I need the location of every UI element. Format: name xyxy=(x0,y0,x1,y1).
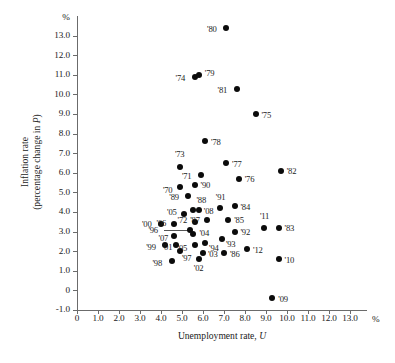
y-tick-mark xyxy=(73,153,77,154)
y-tick-mark xyxy=(73,271,77,272)
data-point[interactable] xyxy=(185,193,191,199)
data-point[interactable] xyxy=(234,86,240,92)
data-point[interactable] xyxy=(261,225,267,231)
y-tick-mark xyxy=(73,75,77,76)
y-axis-title-line2: (percentage change in P) xyxy=(31,114,42,210)
data-point[interactable] xyxy=(196,72,202,78)
data-point-label: '78 xyxy=(211,138,221,147)
y-tick-mark xyxy=(73,251,77,252)
y-axis-line xyxy=(77,16,78,311)
y-tick-label: 12.0 xyxy=(38,51,70,60)
data-point[interactable] xyxy=(223,160,229,166)
data-point[interactable] xyxy=(244,246,250,252)
y-tick-label: 1.0 xyxy=(38,266,70,275)
data-point[interactable] xyxy=(192,242,198,248)
data-point[interactable] xyxy=(173,242,179,248)
data-point-label: '01 xyxy=(163,243,173,252)
data-point-label: '85 xyxy=(234,216,244,225)
x-axis-line xyxy=(77,310,367,311)
data-point-label: '91 xyxy=(216,193,226,202)
data-point[interactable] xyxy=(177,184,183,190)
data-point-label: '09 xyxy=(278,295,288,304)
data-point-label: '88 xyxy=(197,196,207,205)
x-axis-title-text: Unemployment rate, U xyxy=(178,330,266,341)
y-tick-mark xyxy=(73,232,77,233)
y-axis-title: Inflation rate (percentage change in P) xyxy=(19,77,43,247)
y-tick-mark xyxy=(73,173,77,174)
data-point-label: '77 xyxy=(232,160,242,169)
phillips-curve-scatter-chart: % % 13.012.011.010.09.08.07.06.05.04.03.… xyxy=(0,0,395,363)
data-point-label: '03 xyxy=(208,250,218,259)
data-point[interactable] xyxy=(181,211,187,217)
data-point-label: '74 xyxy=(176,74,186,83)
x-axis-title: Unemployment rate, U xyxy=(77,330,367,341)
data-point[interactable] xyxy=(269,295,275,301)
data-point[interactable] xyxy=(232,229,238,235)
data-point-label: '73 xyxy=(175,150,185,159)
data-point-label: '82 xyxy=(287,167,297,176)
data-point-label: '11 xyxy=(260,212,269,221)
x-axis-unit: % xyxy=(372,314,380,324)
data-point-label: '99 xyxy=(146,243,156,252)
data-point-label: '12 xyxy=(253,246,263,255)
y-tick-label: 2.0 xyxy=(38,247,70,256)
data-point-label: '72 xyxy=(178,216,188,225)
data-point[interactable] xyxy=(217,205,223,211)
data-point-label: '98 xyxy=(153,259,163,268)
data-point[interactable] xyxy=(196,207,202,213)
data-point-label: '75 xyxy=(262,111,272,120)
data-point[interactable] xyxy=(276,225,282,231)
data-point[interactable] xyxy=(177,164,183,170)
data-point-label: '07 xyxy=(159,234,169,243)
data-point-label: '80 xyxy=(207,25,217,34)
data-point-label: '10 xyxy=(285,256,295,265)
data-point-label: '00 xyxy=(142,220,152,229)
data-point[interactable] xyxy=(190,207,196,213)
y-tick-mark xyxy=(73,55,77,56)
data-point[interactable] xyxy=(219,236,225,242)
data-point-label: '92 xyxy=(241,228,251,237)
y-tick-mark xyxy=(73,212,77,213)
label-leader-line xyxy=(164,230,188,231)
data-point[interactable] xyxy=(202,240,208,246)
data-point[interactable] xyxy=(171,221,177,227)
data-point-label: '71 xyxy=(182,172,192,181)
data-point-label: '97 xyxy=(182,254,192,263)
data-point-label: '86 xyxy=(230,250,240,259)
data-point[interactable] xyxy=(200,250,206,256)
data-point-label: '08 xyxy=(204,207,214,216)
data-point[interactable] xyxy=(169,258,175,264)
y-tick-mark xyxy=(73,290,77,291)
data-point[interactable] xyxy=(196,256,202,262)
data-point[interactable] xyxy=(171,233,177,239)
data-point-label: '87 xyxy=(190,216,200,225)
y-axis-title-line1: Inflation rate xyxy=(19,137,30,187)
y-tick-mark xyxy=(73,114,77,115)
data-point[interactable] xyxy=(202,138,208,144)
data-point[interactable] xyxy=(221,250,227,256)
y-tick-label: 13.0 xyxy=(38,31,70,40)
data-point-label: '81 xyxy=(218,86,228,95)
data-point[interactable] xyxy=(225,217,231,223)
data-point-label: '89 xyxy=(169,193,179,202)
data-point[interactable] xyxy=(198,172,204,178)
y-tick-label: 0 xyxy=(38,286,70,295)
y-tick-mark xyxy=(73,134,77,135)
data-point[interactable] xyxy=(204,217,210,223)
data-point[interactable] xyxy=(232,203,238,209)
x-tick-label: 13.0 xyxy=(335,314,365,323)
data-point[interactable] xyxy=(192,182,198,188)
data-point-label: '05 xyxy=(167,208,177,217)
data-point-label: '93 xyxy=(226,240,236,249)
data-point[interactable] xyxy=(278,168,284,174)
y-tick-mark xyxy=(73,36,77,37)
data-point[interactable] xyxy=(276,256,282,262)
data-point[interactable] xyxy=(190,231,196,237)
data-point-label: '83 xyxy=(285,224,295,233)
y-tick-mark xyxy=(73,192,77,193)
data-point[interactable] xyxy=(223,25,229,31)
data-point[interactable] xyxy=(236,176,242,182)
y-tick-mark xyxy=(73,94,77,95)
data-point[interactable] xyxy=(253,111,259,117)
data-point-label: '06 xyxy=(157,219,167,228)
